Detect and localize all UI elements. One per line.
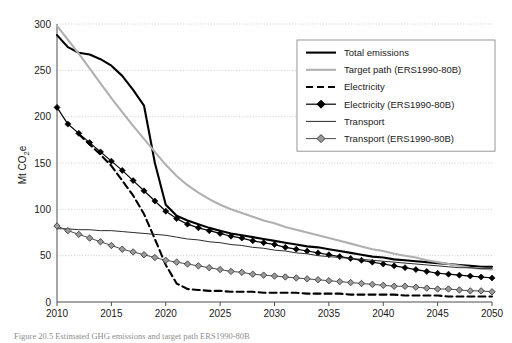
legend-label: Transport (ERS1990-80B)	[344, 133, 454, 144]
data-point-marker	[359, 257, 365, 263]
data-point-marker	[250, 271, 256, 277]
data-point-marker	[293, 275, 299, 281]
data-point-marker	[467, 273, 473, 279]
data-point-marker	[239, 269, 245, 275]
y-tick-label-50: 50	[40, 250, 52, 261]
x-tick-label-2040: 2040	[372, 308, 395, 319]
data-point-marker	[108, 242, 114, 248]
data-point-marker	[206, 265, 212, 271]
data-point-marker	[97, 239, 103, 245]
figure-caption: Figure 20.5 Estimated GHG emissions and …	[14, 330, 494, 342]
data-point-marker	[195, 263, 201, 269]
data-point-marker	[326, 277, 332, 283]
data-point-marker	[446, 271, 452, 277]
y-tick-label-100: 100	[34, 204, 51, 215]
data-point-marker	[402, 283, 408, 289]
x-tick-label-2045: 2045	[427, 308, 450, 319]
series-line	[57, 226, 492, 292]
data-point-marker	[489, 289, 495, 295]
data-point-marker	[119, 246, 125, 252]
legend-label: Electricity	[344, 81, 385, 92]
data-point-marker	[435, 270, 441, 276]
data-point-marker	[184, 261, 190, 267]
data-point-marker	[391, 283, 397, 289]
y-tick-labels-group: 050100150200250300	[34, 19, 51, 308]
x-tick-label-2010: 2010	[46, 308, 69, 319]
legend-label: Total emissions	[344, 47, 409, 58]
data-point-marker	[282, 274, 288, 280]
data-point-marker	[402, 265, 408, 271]
data-point-marker	[445, 286, 451, 292]
data-point-marker	[228, 268, 234, 274]
data-point-marker	[141, 252, 147, 258]
y-tick-label-0: 0	[45, 297, 51, 308]
data-point-marker	[424, 285, 430, 291]
data-point-marker	[478, 288, 484, 294]
data-point-marker	[260, 272, 266, 278]
x-tick-label-2015: 2015	[100, 308, 123, 319]
chart-legend: Total emissionsTarget path (ERS1990-80B)…	[297, 40, 495, 151]
data-point-marker	[347, 279, 353, 285]
data-point-marker	[304, 276, 310, 282]
data-point-marker	[413, 284, 419, 290]
x-tick-label-2025: 2025	[209, 308, 232, 319]
data-point-marker	[424, 268, 430, 274]
data-point-marker	[467, 288, 473, 294]
x-tick-label-2035: 2035	[318, 308, 341, 319]
data-point-marker	[456, 272, 462, 278]
data-point-marker	[413, 267, 419, 273]
data-point-marker	[272, 242, 278, 248]
data-point-marker	[489, 275, 495, 281]
data-point-marker	[337, 278, 343, 284]
data-point-marker	[261, 240, 267, 246]
y-axis-label: Mt CO2e	[17, 145, 31, 184]
x-tick-label-2050: 2050	[481, 308, 504, 319]
data-point-marker	[54, 104, 60, 110]
x-tick-label-2030: 2030	[263, 308, 286, 319]
data-point-marker	[337, 254, 343, 260]
data-point-marker	[86, 235, 92, 241]
data-point-marker	[163, 257, 169, 263]
series-transport-ers1990-80b	[54, 223, 495, 295]
data-point-marker	[271, 273, 277, 279]
data-point-marker	[250, 238, 256, 244]
data-point-marker	[315, 277, 321, 283]
y-tick-label-300: 300	[34, 19, 51, 30]
y-tick-label-250: 250	[34, 65, 51, 76]
legend-label: Target path (ERS1990-80B)	[344, 64, 461, 75]
data-point-marker	[369, 281, 375, 287]
svg-text:Mt CO2e: Mt CO2e	[17, 145, 31, 184]
data-point-marker	[478, 274, 484, 280]
data-point-marker	[282, 244, 288, 250]
data-point-marker	[391, 263, 397, 269]
data-point-marker	[217, 266, 223, 272]
data-point-marker	[54, 223, 60, 229]
data-point-marker	[358, 280, 364, 286]
x-tick-label-2020: 2020	[155, 308, 178, 319]
figure-container: 050100150200250300 201020152020202520302…	[0, 0, 512, 343]
data-point-marker	[380, 282, 386, 288]
y-tick-label-200: 200	[34, 111, 51, 122]
legend-label: Electricity (ERS1990-80B)	[344, 99, 454, 110]
data-point-marker	[76, 231, 82, 237]
data-point-marker	[456, 287, 462, 293]
emissions-line-chart: 050100150200250300 201020152020202520302…	[0, 0, 512, 343]
legend-label: Transport	[344, 116, 385, 127]
data-point-marker	[173, 259, 179, 265]
y-tick-label-150: 150	[34, 158, 51, 169]
data-point-marker	[434, 286, 440, 292]
data-point-marker	[293, 246, 299, 252]
data-point-marker	[130, 249, 136, 255]
x-tick-labels-group: 201020152020202520302035204020452050	[46, 308, 504, 319]
